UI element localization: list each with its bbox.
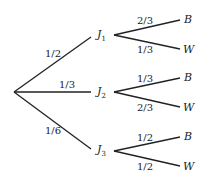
outcome-j1-w: W <box>183 43 196 56</box>
node-j2: J2 <box>95 85 106 100</box>
prob-j3-w: 1/2 <box>137 161 153 172</box>
outcome-j2-b: B <box>183 71 192 84</box>
prob-j3-b: 1/2 <box>137 132 153 143</box>
node-j1: J1 <box>95 28 106 43</box>
outcome-j2-w: W <box>183 101 196 114</box>
edge-root-j1 <box>14 37 91 92</box>
node-j3: J3 <box>95 143 106 158</box>
edge-root-j3 <box>14 92 91 149</box>
prob-j1-w: 1/3 <box>137 44 153 55</box>
outcome-j1-b: B <box>183 13 192 26</box>
prob-j1-b: 2/3 <box>137 15 153 26</box>
prob-root-j3: 1/6 <box>45 125 61 136</box>
prob-j2-b: 1/3 <box>137 73 153 84</box>
prob-j2-w: 2/3 <box>137 102 153 113</box>
outcome-j3-b: B <box>183 130 192 143</box>
prob-root-j1: 1/2 <box>45 48 61 59</box>
probability-tree: 1/2 1/3 1/6 J1 J2 J3 2/3 1/3 B W 1/3 2/3… <box>0 0 204 183</box>
outcome-j3-w: W <box>183 160 196 173</box>
prob-root-j2: 1/3 <box>59 79 75 90</box>
